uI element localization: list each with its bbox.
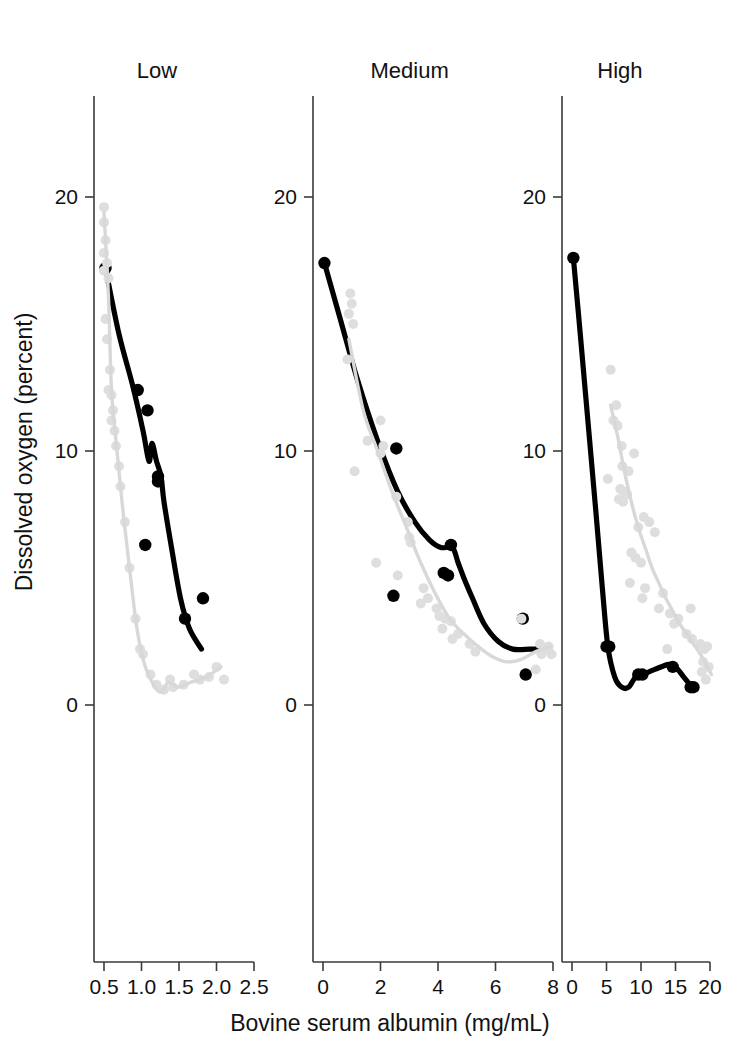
panel-title-low: Low <box>137 58 177 83</box>
x-tick-label: 1.5 <box>164 975 193 998</box>
data-point <box>419 583 429 593</box>
y-tick-label: 0 <box>285 693 297 716</box>
x-tick-label: 1.0 <box>127 975 156 998</box>
data-point <box>442 569 454 581</box>
x-tick-label: 2 <box>375 975 387 998</box>
x-tick-label: 20 <box>698 975 721 998</box>
x-axis-title: Bovine serum albumin (mg/mL) <box>230 1010 550 1036</box>
data-point <box>640 583 650 593</box>
data-point <box>416 598 426 608</box>
panel-low <box>99 202 229 695</box>
data-point <box>345 289 355 299</box>
y-tick-label: 20 <box>274 185 297 208</box>
y-tick-label: 10 <box>55 439 78 462</box>
y-axis-title: Dissolved oxygen (percent) <box>11 313 37 592</box>
data-point <box>347 299 357 309</box>
series-observed-fit-line <box>106 268 202 649</box>
panel-title-medium: Medium <box>370 58 448 83</box>
data-point <box>547 649 557 659</box>
labels-layer: 010200.51.01.52.02.5Low0102002468Medium0… <box>11 58 722 1036</box>
multi-panel-scatter-chart: 010200.51.01.52.02.5Low0102002468Medium0… <box>0 0 750 1048</box>
data-point <box>197 592 209 604</box>
data-point <box>519 668 531 680</box>
panel-high <box>567 252 713 694</box>
x-tick-label: 0 <box>317 975 329 998</box>
data-point <box>654 603 664 613</box>
y-tick-label: 10 <box>523 439 546 462</box>
y-tick-label: 10 <box>274 439 297 462</box>
data-point <box>447 634 457 644</box>
data-point <box>390 442 402 454</box>
data-point <box>344 309 354 319</box>
series-reference-points <box>99 202 229 695</box>
data-point <box>219 675 229 685</box>
data-point <box>644 517 654 527</box>
series-reference-points <box>603 365 714 685</box>
data-point <box>702 642 712 652</box>
data-point <box>606 365 616 375</box>
data-point <box>516 614 526 624</box>
data-point <box>636 558 646 568</box>
series-reference-fit-line <box>104 212 221 692</box>
x-tick-label: 0.5 <box>89 975 118 998</box>
data-point <box>437 624 447 634</box>
data-point <box>141 404 153 416</box>
x-tick-label: 15 <box>664 975 687 998</box>
y-tick-label: 20 <box>55 185 78 208</box>
data-point <box>350 466 360 476</box>
y-tick-label: 0 <box>66 693 78 716</box>
data-point <box>686 603 696 613</box>
data-point <box>662 644 672 654</box>
x-tick-label: 5 <box>601 975 613 998</box>
x-tick-label: 2.0 <box>202 975 231 998</box>
data-point <box>376 416 386 426</box>
data-point <box>637 593 647 603</box>
data-point <box>629 449 639 459</box>
axes-layer <box>85 96 710 971</box>
data-point <box>371 558 381 568</box>
x-tick-label: 0 <box>566 975 578 998</box>
x-tick-label: 8 <box>547 975 559 998</box>
data-point <box>618 497 628 507</box>
data-point <box>650 527 660 537</box>
data-point <box>701 675 711 685</box>
x-tick-label: 10 <box>629 975 652 998</box>
data-point <box>625 578 635 588</box>
data-point <box>139 539 151 551</box>
panels-layer <box>99 202 714 695</box>
data-point <box>387 590 399 602</box>
x-tick-label: 4 <box>432 975 444 998</box>
data-point <box>603 474 613 484</box>
data-point <box>393 570 403 580</box>
data-point <box>348 319 358 329</box>
panel-medium <box>318 257 556 681</box>
x-tick-label: 2.5 <box>239 975 268 998</box>
y-tick-label: 20 <box>523 185 546 208</box>
data-point <box>531 664 541 674</box>
panel-title-high: High <box>597 58 642 83</box>
figure-root: 010200.51.01.52.02.5Low0102002468Medium0… <box>0 0 750 1048</box>
y-tick-label: 0 <box>534 693 546 716</box>
x-tick-label: 6 <box>490 975 502 998</box>
